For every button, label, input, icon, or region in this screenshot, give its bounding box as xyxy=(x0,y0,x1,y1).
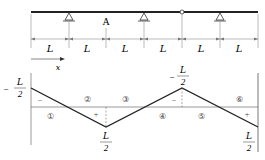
span-label-1: L xyxy=(46,43,54,54)
span-label-3: L xyxy=(121,43,129,54)
svg-text:L: L xyxy=(102,131,109,141)
region-label-2: ② xyxy=(84,95,91,104)
region-label-3: ③ xyxy=(122,95,129,104)
svg-text:2: 2 xyxy=(181,77,186,87)
sign-positive-2: + xyxy=(245,110,250,119)
svg-text:L: L xyxy=(179,65,186,75)
sign-negative-1: − xyxy=(38,96,43,105)
svg-text:2: 2 xyxy=(104,143,109,153)
svg-text:L: L xyxy=(16,77,23,87)
hinge-icon xyxy=(180,10,184,14)
x-axis-label: x xyxy=(56,63,61,72)
influence-line-diagram: A L L L L L L x − xyxy=(0,0,265,160)
span-label-6: L xyxy=(235,43,243,54)
region-label-6: ⑥ xyxy=(236,95,243,104)
region-label-1: ① xyxy=(47,112,54,121)
support-3 xyxy=(214,13,226,21)
dimension-ticks xyxy=(31,38,258,41)
support-1 xyxy=(63,13,75,21)
region-label-5: ⑤ xyxy=(198,112,205,121)
svg-text:L: L xyxy=(245,131,252,141)
svg-text:−: − xyxy=(3,84,9,94)
sign-negative-2: − xyxy=(172,96,177,105)
span-label-2: L xyxy=(83,43,91,54)
svg-text:−: − xyxy=(169,72,175,82)
svg-text:2: 2 xyxy=(18,89,23,99)
influence-line xyxy=(31,88,258,127)
span-label-4: L xyxy=(159,43,167,54)
region-label-4: ④ xyxy=(159,112,166,121)
arrow-head-icon xyxy=(60,57,65,61)
value-label-hinge: − L 2 xyxy=(169,65,189,87)
value-label-left: − L 2 xyxy=(3,77,26,99)
point-a-label: A xyxy=(102,16,110,27)
value-label-right: L 2 xyxy=(243,131,255,153)
svg-text:2: 2 xyxy=(247,143,252,153)
sign-positive-1: + xyxy=(94,110,99,119)
support-2 xyxy=(138,13,150,21)
value-label-a: L 2 xyxy=(100,131,112,153)
span-label-5: L xyxy=(197,43,205,54)
